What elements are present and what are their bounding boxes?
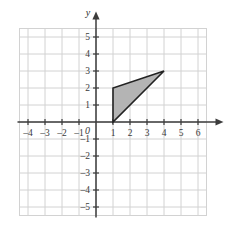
x-tick-label: 2 [128,128,133,138]
y-tick-label: 4 [85,49,90,59]
y-axis-label: y [85,7,91,18]
y-tick-label: 5 [85,32,90,42]
x-tick-label: –2 [56,128,67,138]
y-tick-label: –5 [80,202,91,212]
y-tick-label: 1 [85,100,90,110]
y-tick-label: –2 [80,151,91,161]
x-tick-label: 3 [145,128,150,138]
x-tick-label: 5 [179,128,184,138]
x-tick-label: –3 [39,128,50,138]
x-axis-label: x [228,118,229,129]
x-tick-label: 1 [111,128,116,138]
y-tick-label: 3 [85,66,90,76]
y-tick-label: 2 [85,83,90,93]
coordinate-plane-figure: –4–3–2–112345654321–1–2–3–4–50xy [0,0,228,234]
y-tick-label: –3 [80,168,91,178]
coordinate-plot: –4–3–2–112345654321–1–2–3–4–50xy [0,0,228,234]
y-tick-label: –4 [80,185,91,195]
x-tick-label: 6 [196,128,201,138]
origin-label: 0 [85,125,90,136]
x-tick-label: –4 [22,128,33,138]
x-tick-label: 4 [162,128,167,138]
